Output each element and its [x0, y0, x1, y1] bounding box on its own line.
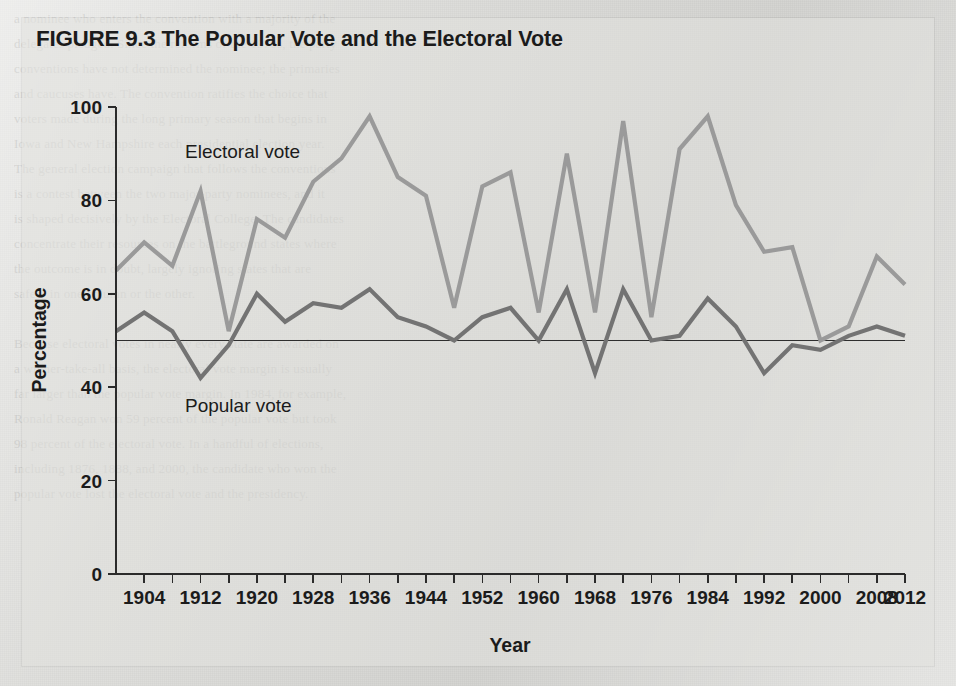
x-tick-label-1952: 1952 [461, 587, 503, 608]
y-axis-ticks [108, 107, 116, 574]
x-tick-label-1944: 1944 [405, 587, 448, 608]
y-tick-label-20: 20 [81, 471, 102, 492]
y-tick-label-40: 40 [81, 377, 102, 398]
x-tick-label-1904: 1904 [123, 587, 166, 608]
figure-page: a nominee who enters the convention with… [0, 0, 956, 686]
line-chart: 020406080100 190419121920192819361944195… [0, 0, 956, 686]
popular-vote-label: Popular vote [185, 395, 292, 416]
x-axis-ticks [144, 574, 905, 583]
y-tick-label-60: 60 [81, 284, 102, 305]
x-tick-label-1976: 1976 [630, 587, 672, 608]
y-tick-label-0: 0 [91, 564, 102, 585]
x-tick-label-1984: 1984 [687, 587, 730, 608]
x-tick-label-1928: 1928 [292, 587, 334, 608]
x-axis-tick-labels: 1904191219201928193619441952196019681976… [123, 587, 926, 608]
x-tick-label-1920: 1920 [236, 587, 278, 608]
y-tick-label-100: 100 [70, 97, 102, 118]
x-tick-label-1992: 1992 [743, 587, 785, 608]
x-tick-label-1960: 1960 [518, 587, 560, 608]
y-axis-tick-labels: 020406080100 [70, 97, 102, 585]
y-tick-label-80: 80 [81, 190, 102, 211]
plot-area: 020406080100 190419121920192819361944195… [0, 0, 956, 686]
x-tick-label-2012: 2012 [884, 587, 926, 608]
x-tick-label-1936: 1936 [348, 587, 390, 608]
x-tick-label-2000: 2000 [799, 587, 841, 608]
electoral-vote-label: Electoral vote [185, 141, 300, 162]
x-axis-title: Year [489, 634, 531, 656]
x-tick-label-1912: 1912 [179, 587, 221, 608]
y-axis-title: Percentage [28, 287, 50, 392]
x-tick-label-1968: 1968 [574, 587, 616, 608]
